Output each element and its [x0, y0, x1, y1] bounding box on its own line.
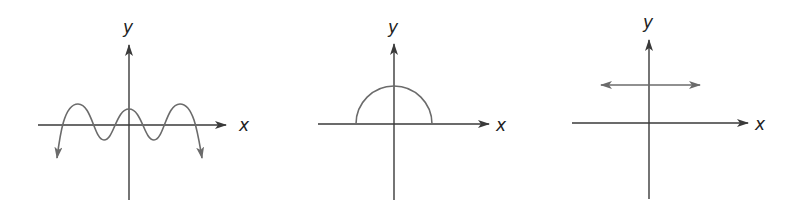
y-axis-label: y: [122, 17, 134, 37]
graph-3: x y: [572, 12, 766, 199]
y-axis-label: y: [642, 12, 654, 32]
y-axis-label: y: [387, 17, 399, 37]
x-axis-label: x: [238, 115, 250, 135]
x-axis-label: x: [754, 114, 766, 134]
x-axis-label: x: [495, 115, 507, 135]
graphs-figure: x y x y x y: [0, 0, 798, 209]
graph-2: x y: [318, 17, 507, 200]
graph-1: x y: [38, 17, 250, 200]
